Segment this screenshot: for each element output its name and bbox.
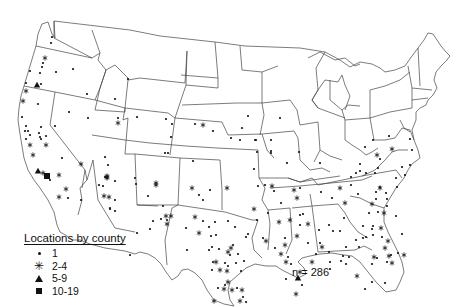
dot-marker bbox=[237, 253, 239, 255]
dot-marker bbox=[39, 72, 41, 74]
dot-marker bbox=[27, 130, 29, 132]
dot-marker bbox=[215, 234, 217, 236]
dot-marker bbox=[388, 135, 390, 137]
dot-marker bbox=[162, 205, 164, 207]
asterisk-marker bbox=[164, 213, 169, 218]
dot-marker bbox=[72, 68, 74, 70]
dot-marker bbox=[377, 211, 379, 213]
asterisk-marker bbox=[355, 273, 360, 278]
dot-marker bbox=[185, 227, 187, 229]
dot-marker bbox=[256, 151, 258, 153]
dot-marker bbox=[247, 233, 249, 235]
asterisk-marker bbox=[102, 193, 107, 198]
asterisk-marker bbox=[288, 217, 293, 222]
dot-marker bbox=[253, 168, 255, 170]
dot-marker bbox=[98, 184, 100, 186]
asterisk-marker bbox=[31, 152, 36, 157]
asterisk-marker bbox=[218, 267, 223, 272]
dot-marker bbox=[350, 176, 352, 178]
asterisk-marker bbox=[214, 259, 219, 264]
dot-marker bbox=[224, 262, 226, 264]
dot-marker bbox=[307, 242, 309, 244]
dot-marker bbox=[114, 199, 116, 201]
dot-marker bbox=[262, 237, 264, 239]
dot-marker bbox=[167, 152, 169, 154]
legend-label: 1 bbox=[52, 247, 58, 259]
dot-marker bbox=[149, 228, 151, 230]
asterisk-marker bbox=[225, 185, 230, 190]
dot-marker bbox=[340, 260, 342, 262]
dot-marker bbox=[212, 130, 214, 132]
asterisk-marker bbox=[43, 55, 48, 60]
dot-marker bbox=[386, 198, 388, 200]
dot-marker bbox=[375, 191, 377, 193]
dot-marker bbox=[29, 70, 31, 72]
dot-marker bbox=[232, 244, 234, 246]
dot-marker bbox=[359, 163, 361, 165]
dot-marker bbox=[376, 257, 378, 259]
dot-marker bbox=[102, 185, 104, 187]
asterisk-marker bbox=[21, 98, 26, 103]
dot-marker bbox=[25, 138, 27, 140]
dot-marker bbox=[192, 160, 194, 162]
dot-marker bbox=[45, 135, 47, 137]
dot-marker bbox=[404, 174, 406, 176]
dot-marker bbox=[379, 186, 381, 188]
asterisk-marker bbox=[28, 142, 33, 147]
dot-marker bbox=[362, 225, 364, 227]
dot-marker bbox=[395, 215, 397, 217]
dot-marker bbox=[368, 212, 370, 214]
dot-marker bbox=[279, 117, 281, 119]
legend-item-5-9: 5-9 bbox=[24, 272, 126, 285]
asterisk-marker bbox=[279, 251, 284, 256]
dot-marker bbox=[25, 82, 27, 84]
dot-marker bbox=[104, 156, 106, 158]
dot-marker bbox=[385, 192, 387, 194]
dot-marker bbox=[80, 199, 82, 201]
legend: Locations by county 1 ✳ 2-4 5-9 10-19 bbox=[24, 232, 126, 297]
dot-marker bbox=[40, 83, 42, 85]
dot-marker bbox=[218, 248, 220, 250]
dot-marker bbox=[86, 93, 88, 95]
dot-marker bbox=[355, 172, 357, 174]
dot-marker bbox=[227, 265, 229, 267]
dot-marker bbox=[332, 230, 334, 232]
asterisk-marker bbox=[284, 259, 289, 264]
dot-marker bbox=[381, 236, 383, 238]
asterisk-marker bbox=[79, 161, 84, 166]
dot-marker bbox=[51, 36, 53, 38]
dot-marker bbox=[372, 225, 374, 227]
dot-marker bbox=[379, 158, 381, 160]
asterisk-marker bbox=[310, 259, 315, 264]
dot-marker bbox=[371, 228, 373, 230]
asterisk-marker bbox=[169, 213, 174, 218]
asterisk-marker bbox=[402, 252, 407, 257]
dot-marker bbox=[134, 177, 136, 179]
dot-marker bbox=[247, 115, 249, 117]
dot-marker bbox=[202, 199, 204, 201]
dot-marker bbox=[243, 260, 245, 262]
asterisk-marker bbox=[197, 230, 202, 235]
dot-marker bbox=[397, 252, 399, 254]
asterisk-marker bbox=[57, 172, 62, 177]
triangle-icon bbox=[32, 275, 46, 282]
dot-marker bbox=[343, 217, 345, 219]
asterisk-marker bbox=[379, 225, 384, 230]
asterisk-marker bbox=[390, 146, 395, 151]
asterisk-marker bbox=[320, 244, 325, 249]
dot-marker bbox=[374, 172, 376, 174]
asterisk-marker bbox=[386, 238, 391, 243]
dot-marker bbox=[42, 62, 44, 64]
dot-marker bbox=[254, 139, 256, 141]
square-icon bbox=[32, 288, 46, 294]
dot-marker bbox=[229, 254, 231, 256]
asterisk-marker bbox=[295, 195, 300, 200]
dot-marker bbox=[358, 246, 360, 248]
dot-marker bbox=[55, 71, 57, 73]
asterisk-marker bbox=[372, 254, 377, 259]
dot-marker bbox=[109, 207, 111, 209]
dot-marker bbox=[386, 205, 388, 207]
dot-marker bbox=[136, 116, 138, 118]
asterisk-marker bbox=[44, 142, 49, 147]
dot-marker bbox=[209, 189, 211, 191]
